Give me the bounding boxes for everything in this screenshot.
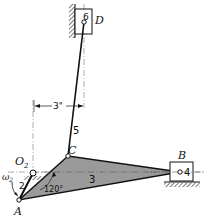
ground-o2 — [24, 176, 41, 180]
pin-a — [17, 198, 21, 202]
angle-label: 120° — [44, 185, 63, 194]
omega-label: ω2 — [2, 172, 13, 183]
pin-b — [178, 170, 182, 174]
dimension-label: 3" — [53, 101, 63, 111]
link-5-label: 5 — [73, 125, 79, 136]
pivot-o2 — [30, 170, 36, 176]
point-a-label: A — [13, 205, 22, 218]
linkage-diagram: 6 D 3" 5 3 2 O2 ω2 120° A C 4 B — [0, 0, 209, 220]
point-b-label: B — [177, 149, 186, 162]
link-4-label: 4 — [184, 167, 190, 178]
point-o2-label: O2 — [15, 155, 29, 170]
pin-d — [82, 20, 86, 24]
ground-wall-6 — [69, 4, 75, 38]
point-c-label: C — [68, 144, 77, 157]
point-d-label: D — [94, 14, 104, 27]
link-3-label: 3 — [89, 174, 95, 185]
ground-4 — [164, 183, 200, 187]
link-2-label: 2 — [19, 181, 25, 191]
